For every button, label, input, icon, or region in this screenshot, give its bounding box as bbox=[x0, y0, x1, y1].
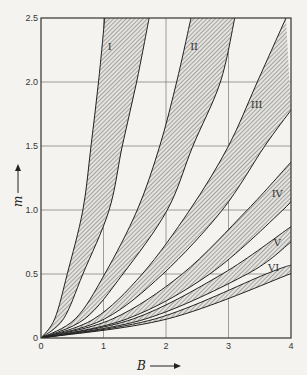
x-tick-label: 4 bbox=[288, 341, 293, 351]
bands bbox=[41, 18, 299, 338]
y-tick-label: 2.5 bbox=[25, 13, 38, 23]
band-label: III bbox=[251, 99, 263, 110]
y-axis-label: m bbox=[11, 196, 25, 207]
band-label: V bbox=[273, 237, 282, 248]
y-tick-label: 2.0 bbox=[25, 77, 38, 87]
x-tick-label: 2 bbox=[163, 341, 168, 351]
x-axis-label: B bbox=[136, 359, 146, 373]
x-tick-label: 0 bbox=[38, 341, 43, 351]
band-label: II bbox=[190, 41, 198, 52]
x-tick-label: 1 bbox=[101, 341, 106, 351]
y-tick-label: 0.5 bbox=[25, 269, 38, 279]
y-tick-label: 1.0 bbox=[25, 205, 38, 215]
band-label: I bbox=[108, 41, 112, 52]
chart: 0123400.51.01.52.02.5 IIIIIIIVVVI B m bbox=[0, 0, 307, 375]
y-axis-arrowhead bbox=[15, 164, 21, 171]
y-tick-label: 1.5 bbox=[25, 141, 38, 151]
band-label: VI bbox=[267, 262, 279, 273]
band-label: IV bbox=[272, 188, 284, 199]
x-axis-arrowhead bbox=[174, 363, 181, 369]
x-tick-label: 3 bbox=[226, 341, 231, 351]
y-tick-label: 0 bbox=[33, 333, 38, 343]
